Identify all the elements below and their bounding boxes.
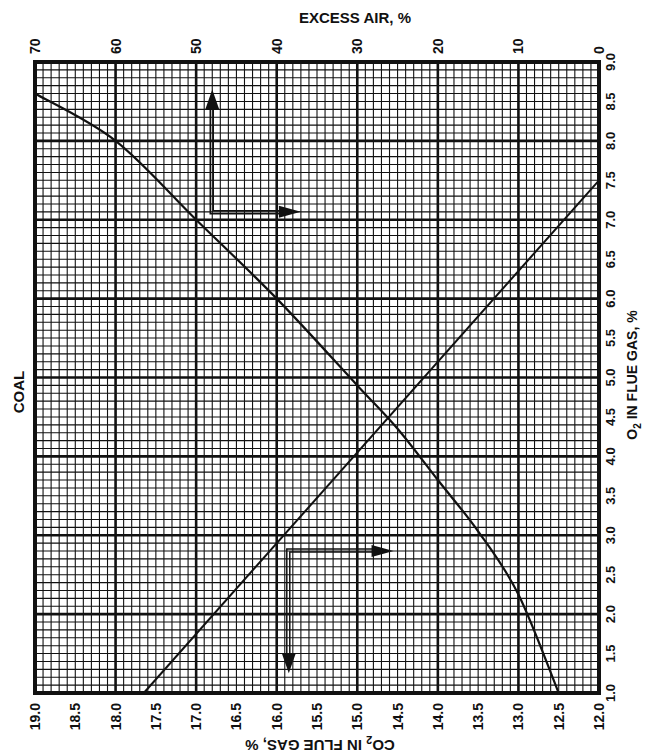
- svg-text:O2 IN FLUE GAS, %: O2 IN FLUE GAS, %: [624, 310, 643, 440]
- right-tick-label: 8.5: [603, 92, 618, 110]
- bottom-tick-label: 17.0: [188, 703, 204, 730]
- arrowhead-right-icon: [372, 545, 394, 557]
- right-tick-label: 1.5: [603, 645, 618, 663]
- top-tick-label: 40: [269, 38, 285, 54]
- right-tick-label: 5.0: [603, 368, 618, 386]
- chart-canvas: 706050403020100 19.018.518.017.517.016.5…: [0, 0, 648, 756]
- bottom-tick-label: 14.0: [430, 703, 446, 730]
- bottom-tick-label: 12.0: [591, 703, 607, 730]
- right-tick-label: 7.5: [603, 171, 618, 189]
- top-tick-label: 60: [108, 38, 124, 54]
- bottom-tick-label: 13.0: [510, 703, 526, 730]
- chart: 706050403020100 19.018.518.017.517.016.5…: [0, 0, 648, 756]
- co2-label-post: IN FLUE GAS, %: [245, 737, 366, 754]
- right-axis-title: O2 IN FLUE GAS, %: [624, 310, 643, 440]
- top-axis-title: EXCESS AIR, %: [299, 9, 411, 26]
- bottom-tick-label: 18.5: [67, 703, 83, 730]
- top-tick-label: 70: [27, 38, 43, 54]
- bottom-tick-label: 16.0: [269, 703, 285, 730]
- top-tick-label: 30: [349, 38, 365, 54]
- right-tick-label: 4.5: [603, 408, 618, 426]
- right-tick-label: 6.5: [603, 250, 618, 268]
- bottom-tick-label: 12.5: [551, 703, 567, 730]
- bottom-tick-label: 15.5: [309, 703, 325, 730]
- top-tick-label: 20: [430, 38, 446, 54]
- top-tick-label: 0: [591, 46, 607, 54]
- o2-label-post: IN FLUE GAS, %: [624, 310, 640, 423]
- right-tick-label: 3.5: [603, 487, 618, 505]
- right-tick-label: 9.0: [603, 53, 618, 71]
- bottom-tick-label: 19.0: [27, 703, 43, 730]
- bottom-tick-label: 13.5: [470, 703, 486, 730]
- right-tick-label: 8.0: [603, 132, 618, 150]
- bottom-tick-label: 15.0: [349, 703, 365, 730]
- bottom-tick-label: 18.0: [108, 703, 124, 730]
- right-tick-label: 2.5: [603, 566, 618, 584]
- right-tick-label: 6.0: [603, 290, 618, 308]
- bottom-axis-ticks: 19.018.518.017.517.016.516.015.515.014.5…: [27, 703, 607, 730]
- o2-label-pre: O: [624, 429, 640, 440]
- bottom-tick-label: 17.5: [148, 703, 164, 730]
- co2-label-pre: CO: [372, 737, 395, 754]
- bottom-tick-label: 16.5: [228, 703, 244, 730]
- right-tick-label: 4.0: [603, 447, 618, 465]
- bottom-axis-title: CO2 IN FLUE GAS, %: [245, 734, 394, 754]
- arrowhead-down-icon: [282, 653, 296, 673]
- right-tick-label: 1.0: [603, 684, 618, 702]
- right-tick-label: 2.0: [603, 605, 618, 623]
- arrowhead-right-icon: [279, 206, 301, 218]
- right-tick-label: 5.5: [603, 329, 618, 347]
- right-axis-ticks: 1.01.52.02.53.03.54.04.55.05.56.06.57.07…: [603, 53, 618, 702]
- top-tick-label: 50: [188, 38, 204, 54]
- svg-text:CO2 IN FLUE GAS, %: CO2 IN FLUE GAS, %: [245, 734, 394, 754]
- right-tick-label: 3.0: [603, 526, 618, 544]
- arrowhead-up-icon: [205, 90, 219, 110]
- bottom-tick-label: 14.5: [390, 703, 406, 730]
- fuel-label: COAL: [10, 371, 27, 414]
- right-tick-label: 7.0: [603, 211, 618, 229]
- top-axis-ticks: 706050403020100: [27, 38, 607, 54]
- top-tick-label: 10: [510, 38, 526, 54]
